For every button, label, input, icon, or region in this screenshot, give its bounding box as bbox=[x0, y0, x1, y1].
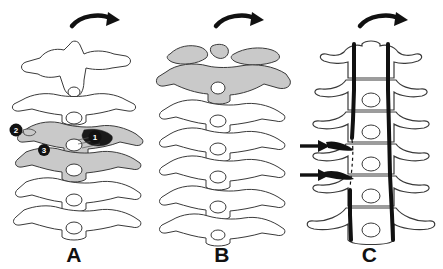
vertebra-3 bbox=[159, 100, 284, 134]
vertebra-ap-4 bbox=[313, 144, 429, 174]
rotation-arrow-icon bbox=[216, 12, 264, 26]
panel-c-illustration bbox=[296, 0, 443, 269]
vertebra-1 bbox=[22, 41, 131, 97]
vertebra-5 bbox=[159, 156, 284, 190]
marker-3-label: 3 bbox=[42, 146, 47, 155]
figure-root: 1 2 3 A bbox=[0, 0, 443, 269]
vertebra-4 bbox=[159, 128, 284, 162]
pointer-arrow-upper-icon bbox=[300, 140, 330, 152]
vertebra-7 bbox=[159, 214, 284, 246]
panel-b-illustration bbox=[148, 0, 296, 269]
rotation-arrow-icon bbox=[360, 12, 408, 26]
panel-a: 1 2 3 A bbox=[0, 0, 148, 269]
marker-2-label: 2 bbox=[14, 126, 19, 135]
vertebra-ap-5 bbox=[313, 176, 429, 206]
vertebra-2 bbox=[12, 94, 135, 125]
panel-b-label: B bbox=[148, 244, 296, 265]
vertebra-ap-1 bbox=[320, 41, 421, 78]
vertebra-6 bbox=[159, 186, 284, 220]
marker-3: 3 bbox=[38, 144, 50, 156]
vertebra-1-shaded bbox=[167, 44, 279, 65]
vertebra-ap-6 bbox=[307, 208, 435, 245]
panel-b: B bbox=[148, 0, 296, 269]
vertebra-ap-2 bbox=[315, 80, 427, 110]
pointer-arrow-lower-icon bbox=[300, 169, 330, 181]
panel-c: C bbox=[296, 0, 443, 269]
marker-1: 1 bbox=[89, 131, 102, 144]
rotation-arrow-icon bbox=[72, 12, 120, 26]
vertebra-6 bbox=[13, 206, 140, 240]
vertebra-ap-3 bbox=[313, 112, 429, 142]
panel-a-label: A bbox=[0, 244, 148, 265]
panel-a-illustration: 1 2 3 bbox=[0, 0, 148, 269]
vertebra-2-shaded bbox=[156, 64, 290, 104]
vertebra-4-shaded bbox=[15, 148, 140, 182]
marker-1-label: 1 bbox=[93, 133, 98, 142]
panel-c-label: C bbox=[296, 244, 443, 265]
